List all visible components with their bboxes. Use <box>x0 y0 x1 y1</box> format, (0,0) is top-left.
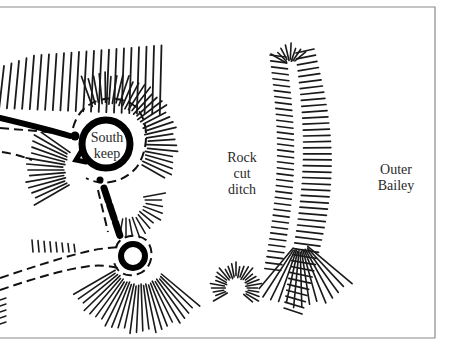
keep-slope-hachure <box>146 159 172 169</box>
keep-tower-dot <box>71 132 80 141</box>
short-hachure <box>74 244 75 252</box>
ditch-east-bank-hachure <box>300 207 327 209</box>
slope-hachure <box>152 46 154 114</box>
bastion-slope-hachure <box>130 286 136 333</box>
slope-hachure <box>76 52 79 111</box>
inner-slope-hachure <box>140 212 153 223</box>
label-outer-bailey-line1: Outer <box>380 162 412 177</box>
keep-slope-hachure <box>147 145 177 146</box>
ditch-south-hachure <box>308 248 344 286</box>
ditch-west-bank-hachure <box>277 180 293 182</box>
label-rock-cut-ditch-line3: ditch <box>228 182 256 197</box>
ditch-west-bank-hachure <box>277 126 293 128</box>
ditch-east-bank-hachure <box>297 231 323 234</box>
keep-west-slope-hachure <box>26 176 64 183</box>
slope-hachure <box>160 45 162 114</box>
ditch-east-bank-hachure <box>303 178 331 179</box>
ditch-west-bank-hachure <box>272 67 288 69</box>
bastion-wall <box>121 244 145 268</box>
slope-hachure <box>45 54 49 109</box>
short-hachure <box>68 244 69 252</box>
ditch-east-bank-hachure <box>301 195 329 197</box>
ditch-east-bank-hachure <box>303 123 329 124</box>
ditch-east-bank-hachure <box>298 219 325 222</box>
bastion-slope-hachure <box>141 284 143 331</box>
ditch-west-bank-hachure <box>274 91 290 93</box>
slope-hachure <box>60 53 64 110</box>
edge-hachure <box>0 304 6 306</box>
ditch-east-bank-hachure <box>303 172 331 173</box>
ditch-west-bank-hachure <box>269 245 285 247</box>
ditch-east-bank-hachure <box>303 129 329 130</box>
label-south-keep-line1: South <box>91 130 124 145</box>
ditch-east-bank-hachure <box>287 290 307 295</box>
keep-slope-hachure <box>148 139 175 141</box>
ditch-west-bank-hachure <box>275 97 291 99</box>
slope-hachure <box>22 58 26 109</box>
ditch-east-bank-hachure <box>296 237 322 240</box>
ditch-west-bank-hachure <box>272 227 288 229</box>
ditch-east-bank-hachure <box>302 184 330 185</box>
ditch-east-bank-hachure <box>300 80 322 83</box>
short-hachure <box>50 242 51 252</box>
ditch-west-bank-hachure <box>274 85 290 87</box>
causeway-wall <box>104 188 120 236</box>
ditch-east-bank-hachure <box>298 225 325 228</box>
ditch-east-bank-hachure <box>302 111 327 113</box>
approach-wall <box>0 118 70 136</box>
ditch-west-bank-hachure <box>276 114 292 116</box>
ditch-west-bank-hachure <box>276 108 292 110</box>
slope-hachure <box>68 53 72 111</box>
short-hachure <box>44 241 45 252</box>
ditch-west-bank-hachure <box>278 144 294 146</box>
ditch-west-bank-hachure <box>275 102 291 104</box>
edge-hachure <box>0 310 6 312</box>
ditch-west-bank-hachure <box>267 257 283 259</box>
slope-hachure <box>38 55 42 110</box>
inner-slope-hachure <box>144 193 166 197</box>
lower-path-dashed-bottom <box>0 266 118 290</box>
keep-slope-hachure <box>147 134 173 138</box>
inner-slope-hachure <box>146 204 162 207</box>
ditch-east-bank-hachure <box>284 308 302 314</box>
keep-west-slope-hachure <box>30 173 65 176</box>
slope-hachure <box>15 61 20 109</box>
causeway-dot <box>97 177 104 184</box>
ditch-east-bank-hachure <box>300 86 322 89</box>
ditch-west-bank-hachure <box>277 132 293 134</box>
short-hachure <box>62 243 63 252</box>
label-rock-cut-ditch-line2: cut <box>233 166 250 181</box>
mound-hachure <box>248 290 259 292</box>
bastion-slope-hachure <box>137 285 139 332</box>
dashed-outlines <box>0 99 152 290</box>
edge-hachure <box>0 322 6 324</box>
slope-hachure <box>145 47 147 114</box>
ditch-east-bank-hachure <box>298 61 317 65</box>
slope-hachure <box>53 54 57 110</box>
ditch-west-bank-hachure <box>272 221 288 223</box>
ditch-west-bank-hachure <box>274 209 290 211</box>
ditch-east-bank-hachure <box>304 141 331 142</box>
lower-path-dashed-top <box>0 247 120 278</box>
ditch-west-bank-hachure <box>276 191 292 193</box>
slope-hachure <box>0 66 4 108</box>
ditch-east-bank-hachure <box>302 189 330 190</box>
ditch-west-bank-hachure <box>273 215 289 217</box>
mound-hachure <box>213 290 224 292</box>
ditch-north-hachure <box>290 43 291 59</box>
ditch-south-hachure <box>300 252 302 306</box>
ditch-east-bank-hachure <box>299 74 320 77</box>
slope-hachure <box>30 56 34 110</box>
keep-slope-hachure <box>148 148 178 151</box>
edge-hachure <box>0 298 6 300</box>
short-hachure <box>56 242 57 252</box>
short-hachure <box>32 240 33 252</box>
ditch-west-bank-hachure <box>277 174 293 176</box>
ditch-east-bank-hachure <box>298 68 318 71</box>
ditch-east-bank-hachure <box>299 213 326 215</box>
ditch-east-bank-hachure <box>301 98 325 100</box>
ditch-west-bank-hachure <box>275 197 291 199</box>
mound-hachure <box>238 267 240 278</box>
ditch-west-bank-hachure <box>265 269 281 271</box>
ditch-west-bank-hachure <box>278 150 294 152</box>
